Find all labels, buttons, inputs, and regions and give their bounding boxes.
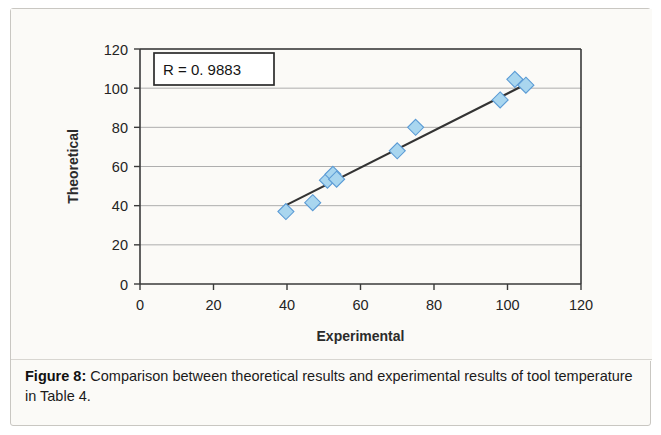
caption-divider xyxy=(11,359,652,360)
trendline xyxy=(285,83,528,205)
x-axis-tick-label: 60 xyxy=(352,297,368,313)
x-axis-tick-label: 120 xyxy=(569,297,593,313)
chart-figure-area: 020406080100120020406080100120Experiment… xyxy=(11,9,652,361)
x-axis-tick-label: 0 xyxy=(136,297,144,313)
figure-card: 020406080100120020406080100120Experiment… xyxy=(10,8,651,426)
x-axis-tick-label: 100 xyxy=(495,297,519,313)
x-axis-tick-label: 40 xyxy=(279,297,295,313)
figure-caption: Figure 8: Comparison between theoretical… xyxy=(25,366,641,406)
y-axis-tick-label: 20 xyxy=(112,237,128,253)
caption-figure-number: Figure 8: xyxy=(25,368,86,384)
y-axis-title: Theoretical xyxy=(65,129,81,204)
data-point-marker[interactable] xyxy=(305,195,321,211)
y-axis-tick-label: 60 xyxy=(112,159,128,175)
y-axis-tick-label: 80 xyxy=(112,120,128,136)
y-axis-tick-label: 40 xyxy=(112,198,128,214)
data-point-marker[interactable] xyxy=(408,119,424,135)
x-axis-title: Experimental xyxy=(317,328,405,344)
y-axis-tick-label: 0 xyxy=(120,277,128,293)
annotation-r-value: R = 0. 9883 xyxy=(163,61,241,78)
figure-page: 020406080100120020406080100120Experiment… xyxy=(0,0,661,435)
y-axis-tick-label: 100 xyxy=(104,81,128,97)
caption-body: Comparison between theoretical results a… xyxy=(25,368,633,404)
scatter-chart: 020406080100120020406080100120Experiment… xyxy=(11,9,652,361)
x-axis-tick-label: 80 xyxy=(426,297,442,313)
x-axis-tick-label: 20 xyxy=(205,297,221,313)
y-axis-tick-label: 120 xyxy=(104,42,128,58)
